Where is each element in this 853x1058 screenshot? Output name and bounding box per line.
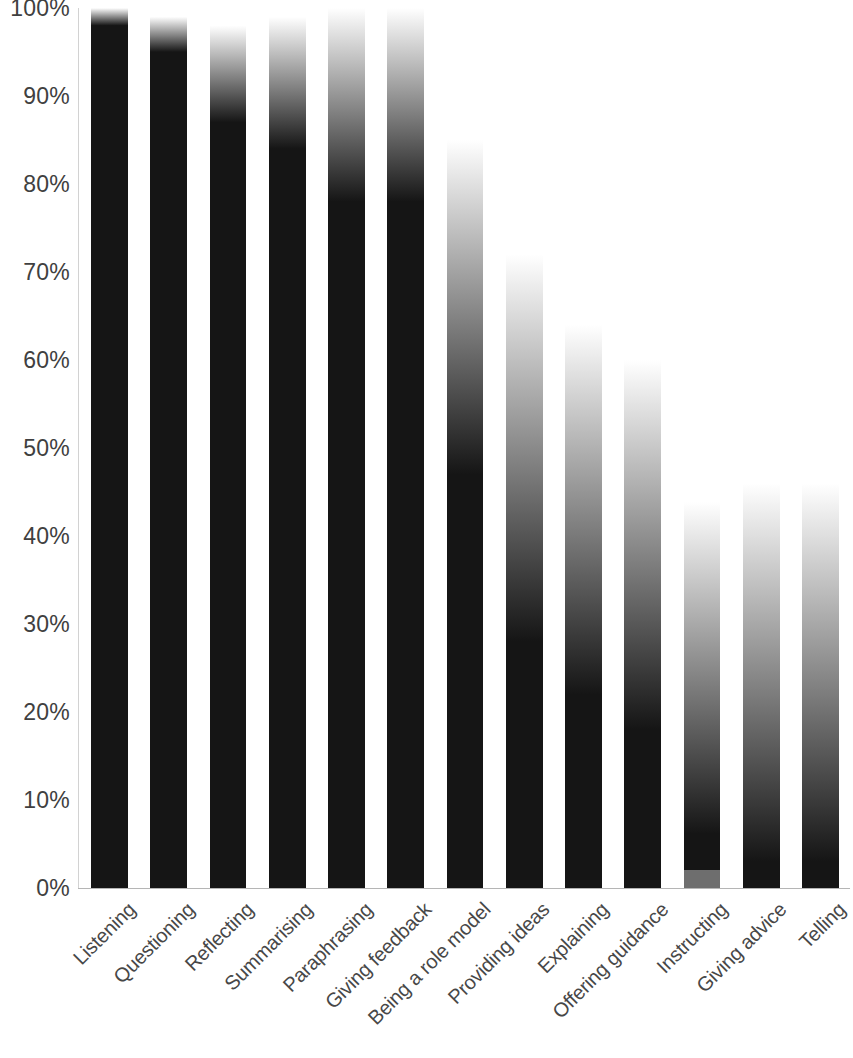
bar-slot <box>743 8 780 888</box>
bar-slot <box>150 8 187 888</box>
bar[interactable] <box>91 8 128 888</box>
y-tick-label: 20% <box>0 701 70 724</box>
x-tick-label: Telling <box>795 898 850 953</box>
bar-slot <box>269 8 306 888</box>
bar-slot <box>624 8 661 888</box>
y-tick-label: 90% <box>0 85 70 108</box>
x-tick-label: Giving feedback <box>320 898 435 1013</box>
bar-slot <box>328 8 365 888</box>
y-tick-label: 60% <box>0 349 70 372</box>
bar[interactable] <box>150 8 187 888</box>
bar[interactable] <box>328 8 365 888</box>
y-tick-label: 0% <box>0 877 70 900</box>
plot-area <box>80 8 850 888</box>
y-axis: 100%90%80%70%60%50%40%30%20%10%0% <box>0 0 70 888</box>
bar[interactable] <box>684 8 721 870</box>
bar-slot <box>506 8 543 888</box>
y-tick-label: 30% <box>0 613 70 636</box>
bar[interactable] <box>565 8 602 888</box>
bar-base-segment[interactable] <box>684 870 721 888</box>
y-tick-label: 50% <box>0 437 70 460</box>
bar[interactable] <box>387 8 424 888</box>
bar-slot <box>802 8 839 888</box>
y-tick-label: 10% <box>0 789 70 812</box>
y-axis-line <box>78 8 79 889</box>
x-axis: ListeningQuestioningReflectingSummarisin… <box>80 888 850 1058</box>
y-tick-label: 100% <box>0 0 70 20</box>
bar[interactable] <box>743 8 780 888</box>
bar-chart: 100%90%80%70%60%50%40%30%20%10%0% Listen… <box>0 0 853 1058</box>
bar-slot <box>387 8 424 888</box>
bar-slot <box>447 8 484 888</box>
bar-slot <box>565 8 602 888</box>
bar[interactable] <box>269 8 306 888</box>
bar[interactable] <box>210 8 247 888</box>
bar[interactable] <box>624 8 661 888</box>
x-tick-label: Providing ideas <box>444 898 554 1008</box>
y-tick-label: 80% <box>0 173 70 196</box>
bar[interactable] <box>506 8 543 888</box>
bar-slot <box>210 8 247 888</box>
bar-slot <box>684 8 721 888</box>
bar[interactable] <box>447 8 484 888</box>
y-tick-label: 40% <box>0 525 70 548</box>
bar[interactable] <box>802 8 839 888</box>
y-tick-label: 70% <box>0 261 70 284</box>
bar-slot <box>91 8 128 888</box>
